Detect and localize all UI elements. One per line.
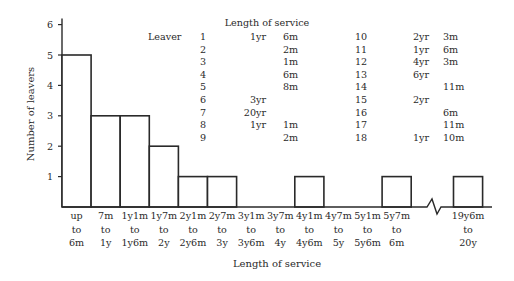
x-tick-label: to: [72, 224, 82, 235]
service-months: 11m: [443, 119, 464, 130]
service-months: 6m: [283, 31, 298, 42]
leaver-number: 11: [355, 44, 367, 55]
service-years: 2yr: [413, 94, 430, 105]
service-months: 8m: [283, 81, 298, 92]
bar: [382, 177, 411, 207]
leaver-number: 18: [355, 132, 367, 143]
y-axis-label: Number of leavers: [25, 67, 36, 161]
inset-table-row: 181yr10m: [355, 132, 464, 143]
x-tick-label: 1y1m: [121, 210, 148, 221]
inset-table-row: 111yr6m: [355, 44, 458, 55]
inset-table-row: 81yr1m: [200, 119, 298, 130]
service-years: 1yr: [250, 31, 267, 42]
bar: [120, 116, 149, 207]
service-months: 3m: [443, 56, 458, 67]
y-tick-label: 1: [47, 171, 53, 182]
bar: [454, 177, 483, 207]
x-tick-label: 3y6m: [238, 237, 265, 248]
y-axis: 123456: [47, 19, 62, 207]
inset-table-row: 31m: [200, 56, 298, 67]
x-tick-label: 3y: [216, 237, 228, 248]
x-tick-label: 2y1m: [180, 210, 207, 221]
inset-table-row: 1711m: [355, 119, 464, 130]
service-months: 1m: [283, 56, 298, 67]
service-years: 1yr: [413, 132, 430, 143]
y-tick-label: 3: [47, 110, 53, 121]
x-tick-label: 1y: [100, 237, 112, 248]
service-months: 1m: [283, 119, 298, 130]
service-months: 6m: [443, 107, 458, 118]
x-tick-label: 20y: [459, 237, 477, 248]
service-years: 3yr: [250, 94, 267, 105]
leaver-number: 14: [355, 81, 367, 92]
leaver-number: 9: [200, 132, 206, 143]
leaver-number: 5: [200, 81, 206, 92]
x-tick-label: 3y7m: [267, 210, 294, 221]
x-tick-label: to: [334, 224, 344, 235]
inset-table-row: 46m: [200, 69, 298, 80]
x-tick-label: up: [70, 210, 82, 221]
x-tick-label: to: [130, 224, 140, 235]
leaver-number: 3: [200, 56, 206, 67]
x-tick-label: 1y6m: [121, 237, 148, 248]
inset-table-row: 58m: [200, 81, 298, 92]
leaver-number: 6: [200, 94, 206, 105]
x-tick-label: 5y6m: [354, 237, 381, 248]
x-tick-label: to: [392, 224, 402, 235]
inset-table-row: 720yr: [200, 107, 266, 118]
service-months: 6m: [443, 44, 458, 55]
leaver-number: 13: [355, 69, 367, 80]
bar: [62, 55, 91, 207]
x-tick-label: to: [463, 224, 473, 235]
inset-table-row: 1411m: [355, 81, 464, 92]
x-tick-label: 4y1m: [296, 210, 323, 221]
inset-table-row: 92m: [200, 132, 298, 143]
x-tick-label: to: [305, 224, 315, 235]
y-tick-label: 6: [47, 19, 53, 30]
service-years: 1yr: [250, 119, 267, 130]
y-tick-label: 2: [47, 141, 53, 152]
leaver-number: 16: [355, 107, 367, 118]
leaver-number: 12: [355, 56, 367, 67]
x-tick-label: 6m: [69, 237, 84, 248]
y-tick-label: 5: [47, 50, 53, 61]
inset-table: Length of service Leaver 11yr6m22m31m46m…: [148, 17, 464, 143]
inset-table-row: 102yr3m: [355, 31, 458, 42]
x-tick-label: 5y7m: [383, 210, 410, 221]
inset-table-row: 124yr3m: [355, 56, 458, 67]
inset-table-row: 11yr6m: [200, 31, 298, 42]
service-years: 1yr: [413, 44, 430, 55]
inset-table-row-header: Leaver: [148, 31, 182, 42]
histogram-chart: Number of leavers 123456 upto6m7mto1y1y1…: [0, 0, 514, 281]
x-axis-label: Length of service: [233, 258, 321, 269]
x-tick-label: 2y: [158, 237, 170, 248]
bar: [208, 177, 237, 207]
leaver-number: 10: [355, 31, 367, 42]
x-tick-label: to: [101, 224, 111, 235]
x-tick-label: 5y1m: [354, 210, 381, 221]
inset-table-row: 136yr: [355, 69, 430, 80]
x-tick-label: 2y7m: [209, 210, 236, 221]
x-tick-labels: upto6m7mto1y1y1mto1y6m1y7mto2y2y1mto2y6m…: [69, 210, 485, 248]
inset-table-row: 22m: [200, 44, 298, 55]
leaver-number: 7: [200, 107, 206, 118]
x-tick-label: 7m: [98, 210, 113, 221]
service-years: 4yr: [413, 56, 430, 67]
y-tick-label: 4: [47, 80, 53, 91]
x-tick-label: to: [246, 224, 256, 235]
inset-table-row: 166m: [355, 107, 458, 118]
inset-table-row: 152yr: [355, 94, 430, 105]
service-months: 11m: [443, 81, 464, 92]
x-tick-label: to: [275, 224, 285, 235]
service-months: 10m: [443, 132, 464, 143]
leaver-number: 8: [200, 119, 206, 130]
leaver-number: 2: [200, 44, 206, 55]
service-months: 3m: [443, 31, 458, 42]
service-months: 2m: [283, 44, 298, 55]
x-tick-label: 4y7m: [325, 210, 352, 221]
x-tick-label: 4y6m: [296, 237, 323, 248]
x-tick-label: 5y: [333, 237, 345, 248]
bar: [91, 116, 120, 207]
leaver-number: 1: [200, 31, 206, 42]
leaver-number: 4: [200, 69, 206, 80]
